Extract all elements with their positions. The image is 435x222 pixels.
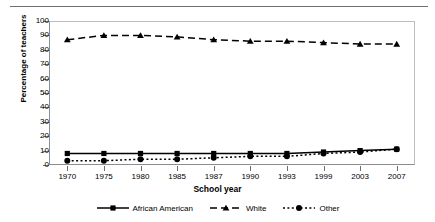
chart-figure: Percentage of teachers 10090807060504030… (0, 0, 435, 222)
data-point-marker (101, 158, 107, 164)
data-point-marker (138, 156, 144, 162)
data-point-marker (321, 150, 327, 156)
data-point-marker (247, 153, 253, 159)
data-point-marker (64, 158, 70, 164)
data-point-marker (138, 151, 143, 156)
series-layer (0, 0, 435, 222)
data-point-marker (393, 41, 400, 47)
series-white (64, 32, 400, 46)
series-other (64, 146, 399, 164)
data-point-marker (175, 151, 180, 156)
series-african-american (65, 147, 400, 157)
series-line (67, 149, 396, 153)
data-point-marker (394, 146, 400, 152)
data-point-marker (357, 149, 363, 155)
series-line (67, 35, 396, 44)
data-point-marker (65, 151, 70, 156)
data-point-marker (211, 155, 217, 161)
data-point-marker (101, 151, 106, 156)
data-point-marker (284, 153, 290, 159)
data-point-marker (174, 156, 180, 162)
